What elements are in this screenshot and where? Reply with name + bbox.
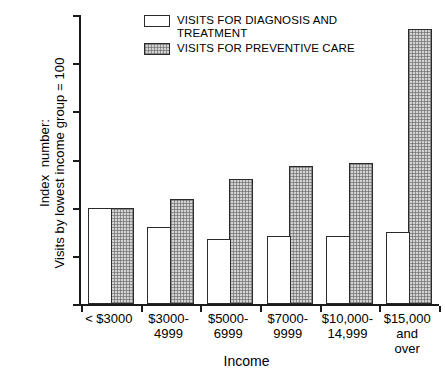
x-category-label: $7000- 9999	[258, 311, 318, 341]
legend-item-preventive: VISITS FOR PREVENTIVE CARE	[144, 42, 404, 55]
y-tick	[73, 111, 80, 113]
chart-legend: VISITS FOR DIAGNOSIS AND TREATMENT VISIT…	[144, 14, 404, 57]
bar-plain	[386, 232, 410, 304]
bar-hatch	[349, 163, 373, 304]
y-tick	[73, 256, 80, 258]
bar-group	[81, 15, 141, 304]
x-axis-title: Income	[0, 353, 445, 369]
x-category-label: < $3000	[79, 311, 139, 326]
legend-label-diagnosis: VISITS FOR DIAGNOSIS AND TREATMENT	[177, 14, 337, 40]
y-tick	[73, 208, 80, 210]
y-tick	[73, 160, 80, 162]
x-category-label: $15,000 and over	[377, 311, 437, 356]
bar-chart-figure: Index number: Visits by lowest income gr…	[0, 0, 445, 377]
legend-label-preventive: VISITS FOR PREVENTIVE CARE	[177, 42, 355, 55]
bar-group	[200, 15, 260, 304]
x-axis-line	[79, 304, 439, 306]
bar-plain	[207, 239, 231, 305]
bar-plain	[326, 236, 350, 304]
bar-hatch	[229, 179, 253, 304]
bar-hatch	[170, 199, 194, 304]
bar-series-container	[81, 15, 439, 304]
bar-group	[320, 15, 380, 304]
y-axis-title: Index number: Visits by lowest income gr…	[37, 18, 67, 308]
bar-plain	[147, 227, 171, 304]
legend-swatch-hatch-icon	[144, 43, 170, 55]
x-category-label: $3000- 4999	[139, 311, 199, 341]
bar-group	[260, 15, 320, 304]
bar-group	[141, 15, 201, 304]
y-tick	[73, 304, 80, 306]
bar-hatch	[110, 208, 134, 304]
y-tick	[73, 15, 80, 17]
bar-hatch	[408, 29, 432, 304]
x-category-label: $5000- 6999	[198, 311, 258, 341]
bar-hatch	[289, 166, 313, 304]
x-category-label: $10,000- 14,999	[318, 311, 378, 341]
bar-plain	[267, 236, 291, 304]
bar-plain	[88, 208, 112, 304]
plot-area: 050100150200250300	[79, 15, 439, 306]
legend-swatch-plain-icon	[144, 15, 170, 27]
bar-group	[379, 15, 439, 304]
legend-item-diagnosis: VISITS FOR DIAGNOSIS AND TREATMENT	[144, 14, 404, 40]
y-tick	[73, 63, 80, 65]
